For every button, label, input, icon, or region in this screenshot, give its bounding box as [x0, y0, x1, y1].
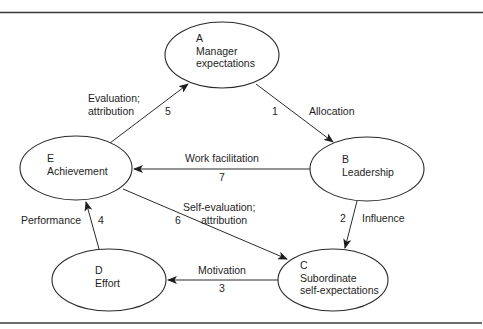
edge-number: 6	[175, 214, 181, 226]
edge-label: Influence	[362, 212, 405, 224]
edge-label: Evaluation;attribution	[88, 92, 140, 117]
edge-label: Motivation	[198, 264, 246, 276]
edge-e-to-a: 5Evaluation;attribution	[88, 84, 188, 143]
diagram-canvas: 1Allocation2Influence3Motivation4Perform…	[0, 0, 483, 329]
node-c: CSubordinateself-expectations	[278, 249, 388, 311]
edge-number: 2	[340, 212, 346, 224]
edge-number: 3	[219, 282, 225, 294]
edge-e-to-c: 6Self-evaluation;attribution	[123, 189, 287, 259]
node-d: DEffort	[52, 249, 166, 311]
arrow-icon	[345, 201, 357, 248]
edge-c-to-d: 3Motivation	[168, 264, 279, 294]
edge-number: 5	[165, 105, 171, 117]
edge-number: 4	[98, 214, 104, 226]
edge-b-to-e: 7Work facilitation	[134, 152, 310, 183]
edge-d-to-e: 4Performance	[21, 202, 104, 249]
node-b: BLeadership	[310, 137, 424, 201]
node-a: AManagerexpectations	[165, 22, 279, 88]
edge-label: Self-evaluation;attribution	[183, 201, 255, 226]
arrow-icon	[86, 202, 99, 249]
edge-number: 1	[272, 105, 278, 117]
edge-label: Work facilitation	[185, 152, 259, 164]
edge-number: 7	[219, 171, 225, 183]
edge-b-to-c: 2Influence	[340, 201, 405, 248]
edge-a-to-b: 1Allocation	[256, 84, 355, 142]
edge-label: Performance	[21, 214, 81, 226]
edge-label: Allocation	[309, 105, 355, 117]
node-e: EAchievement	[20, 136, 132, 200]
